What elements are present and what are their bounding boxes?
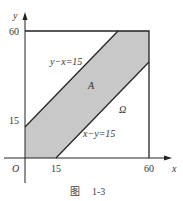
region-a-label: A [87,80,95,91]
x-axis-arrow-icon [164,156,172,161]
y-tick-60: 60 [9,26,19,37]
line-lower-label: x−y=15 [82,128,115,139]
x-tick-60: 60 [144,163,154,174]
diagram: y 60 15 O 15 60 x y−x=15 A Ω x−y=15 图 1-… [0,0,183,201]
x-axis-label: x [171,163,177,174]
x-tick-15: 15 [51,163,61,174]
y-tick-15: 15 [9,115,19,126]
caption-prefix: 图 [70,186,80,197]
origin-label: O [12,163,19,174]
line-upper-label: y−x=15 [49,56,82,67]
y-axis-arrow-icon [23,12,28,20]
region-omega-label: Ω [119,104,126,115]
y-axis-label: y [12,10,18,21]
caption-number: 1-3 [92,186,105,197]
